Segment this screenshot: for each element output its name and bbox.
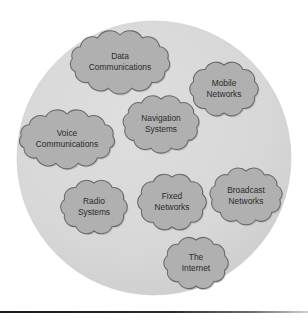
cloud-label: Voice	[57, 128, 78, 138]
cloud-label: Fixed	[162, 191, 183, 201]
cloud-label: The	[189, 252, 204, 262]
cloud-label: Networks	[155, 202, 190, 212]
concept-diagram: DataCommunicationsMobileNetworksNavigati…	[0, 0, 308, 320]
cloud-label: Communications	[89, 62, 151, 72]
cloud-label: Systems	[145, 124, 177, 134]
cloud-label: Radio	[83, 196, 105, 206]
cloud-label: Mobile	[212, 78, 237, 88]
cloud-label: Systems	[78, 207, 110, 217]
cloud-label: Communications	[36, 139, 98, 149]
page-edge-scan-line	[0, 311, 308, 313]
cloud-label: Data	[111, 51, 129, 61]
cloud-label: Navigation	[141, 113, 181, 123]
diagram-canvas: DataCommunicationsMobileNetworksNavigati…	[0, 0, 308, 320]
cloud-label: Broadcast	[227, 185, 265, 195]
cloud-label: Internet	[182, 263, 211, 273]
cloud-label: Networks	[229, 196, 264, 206]
cloud-label: Networks	[207, 89, 242, 99]
